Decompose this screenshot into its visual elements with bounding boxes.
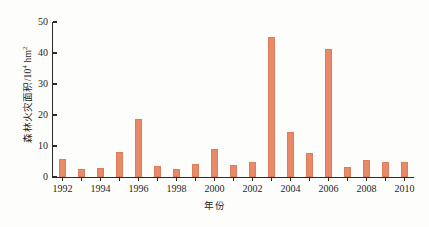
bar — [287, 132, 294, 177]
bar — [363, 160, 370, 177]
y-axis-tick-mark — [53, 176, 57, 177]
x-axis-tick-label: 2008 — [347, 183, 387, 195]
x-axis-tick-mark — [157, 177, 158, 181]
x-axis-title: 年份 — [0, 198, 429, 212]
bar — [59, 159, 66, 177]
x-axis-tick-label: 2010 — [385, 183, 425, 195]
x-axis-tick-label: 2006 — [309, 183, 349, 195]
y-axis-tick-label: 50 — [26, 15, 48, 29]
bar — [211, 149, 218, 177]
x-axis-tick-mark — [366, 177, 367, 181]
y-axis-tick-mark — [53, 52, 57, 53]
x-axis-tick-mark — [62, 177, 63, 181]
bar — [249, 162, 256, 177]
x-axis-tick-mark — [347, 177, 348, 181]
bar — [268, 37, 275, 177]
bar — [173, 169, 180, 177]
y-axis-tick-label: 40 — [26, 46, 48, 60]
x-axis-tick-mark — [404, 177, 405, 181]
x-axis-tick-label: 1992 — [43, 183, 83, 195]
x-axis-tick-mark — [328, 177, 329, 181]
y-axis-tick-mark — [53, 83, 57, 84]
x-axis-tick-label: 2004 — [271, 183, 311, 195]
y-axis-tick-label: 10 — [26, 139, 48, 153]
x-axis-tick-mark — [195, 177, 196, 181]
x-axis-tick-label: 1994 — [81, 183, 121, 195]
y-axis-tick-label: 30 — [26, 77, 48, 91]
forest-fire-area-bar-chart: 森林火灾面积/104 hm2 01020304050 1992199419961… — [0, 0, 429, 227]
bar — [154, 166, 161, 177]
x-axis-tick-mark — [119, 177, 120, 181]
bar — [135, 119, 142, 177]
bar — [230, 165, 237, 177]
x-axis-tick-label: 2002 — [233, 183, 273, 195]
x-axis-tick-mark — [290, 177, 291, 181]
y-axis-tick-label: 0 — [26, 170, 48, 184]
y-axis-tick-mark — [53, 21, 57, 22]
x-axis-tick-label: 2000 — [195, 183, 235, 195]
bar — [78, 169, 85, 177]
x-axis-tick-mark — [81, 177, 82, 181]
x-axis-tick-mark — [138, 177, 139, 181]
x-axis-tick-mark — [385, 177, 386, 181]
x-axis-tick-mark — [214, 177, 215, 181]
bar — [306, 153, 313, 177]
x-axis-tick-label: 1998 — [157, 183, 197, 195]
bar — [344, 167, 351, 177]
x-axis-tick-mark — [176, 177, 177, 181]
x-axis-tick-mark — [271, 177, 272, 181]
y-axis-title-exponent: 4 — [21, 65, 28, 68]
y-axis-title: 森林火灾面积/104 hm2 — [16, 7, 34, 182]
bar — [116, 152, 123, 177]
x-axis-tick-mark — [252, 177, 253, 181]
bar — [97, 168, 104, 177]
bar — [192, 164, 199, 177]
plot-area: 01020304050 1992199419961998200020022004… — [52, 22, 414, 178]
x-axis-tick-mark — [100, 177, 101, 181]
y-axis-tick-mark — [53, 145, 57, 146]
y-axis-tick-label: 20 — [26, 108, 48, 122]
bar — [382, 162, 389, 177]
x-axis-tick-mark — [233, 177, 234, 181]
y-axis-tick-mark — [53, 114, 57, 115]
bar — [401, 162, 408, 177]
x-axis-tick-mark — [309, 177, 310, 181]
bar — [325, 49, 332, 177]
x-axis-tick-label: 1996 — [119, 183, 159, 195]
